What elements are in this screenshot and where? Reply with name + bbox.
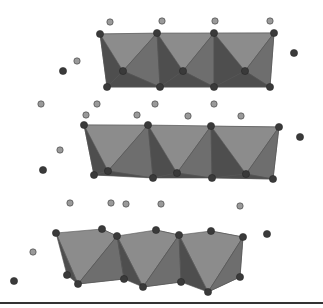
interlayer-atom-dark: [10, 277, 17, 284]
interlayer-atom-light: [67, 200, 73, 206]
interlayer-atom-light: [30, 249, 36, 255]
vertex-atom: [80, 121, 87, 128]
interlayer-atom-dark: [290, 49, 297, 56]
interlayer-atom-light: [107, 19, 113, 25]
vertex-atom: [104, 167, 111, 174]
vertex-atom: [236, 273, 243, 280]
vertex-atom: [90, 171, 97, 178]
vertex-atom: [242, 170, 249, 177]
interlayer-atom-dark: [59, 67, 66, 74]
interlayer-atom-light: [38, 101, 44, 107]
vertex-atom: [208, 174, 215, 181]
interlayer-atom-light: [152, 101, 158, 107]
vertex-atom: [210, 29, 217, 36]
vertex-atom: [207, 122, 214, 129]
vertex-atom: [63, 271, 70, 278]
interlayer-atom-dark: [263, 230, 270, 237]
vertex-atom: [266, 83, 273, 90]
interlayer-atom-light: [94, 101, 100, 107]
vertex-atom: [239, 233, 246, 240]
interlayer-atom-light: [158, 201, 164, 207]
interlayer-atom-dark: [39, 166, 46, 173]
polyhedra-canvas: [0, 0, 323, 308]
interlayer-atom-light: [238, 113, 244, 119]
interlayer-atom-light: [212, 18, 218, 24]
vertex-atom: [179, 67, 186, 74]
interlayer-atom-light: [267, 18, 273, 24]
vertex-atom: [119, 67, 126, 74]
vertex-atom: [74, 280, 81, 287]
vertex-atom: [153, 29, 160, 36]
vertex-atom: [120, 275, 127, 282]
interlayer-atom-light: [74, 58, 80, 64]
vertex-atom: [152, 226, 159, 233]
vertex-atom: [149, 174, 156, 181]
vertex-atom: [139, 283, 146, 290]
interlayer-atom-light: [237, 203, 243, 209]
vertex-atom: [103, 83, 110, 90]
vertex-atom: [270, 29, 277, 36]
vertex-atom: [177, 278, 184, 285]
interlayer-atom-light: [83, 112, 89, 118]
vertex-atom: [156, 83, 163, 90]
interlayer-atom-light: [159, 18, 165, 24]
interlayer-atom-dark: [296, 133, 303, 140]
vertex-atom: [173, 169, 180, 176]
vertex-atom: [52, 229, 59, 236]
crystal-structure-diagram: [0, 0, 323, 308]
vertex-atom: [98, 225, 105, 232]
interlayer-atom-light: [185, 113, 191, 119]
vertex-atom: [241, 67, 248, 74]
interlayer-atom-light: [108, 200, 114, 206]
vertex-atom: [144, 121, 151, 128]
interlayer-atom-light: [134, 112, 140, 118]
interlayer-atom-light: [211, 101, 217, 107]
vertex-atom: [204, 288, 211, 295]
vertex-atom: [275, 123, 282, 130]
vertex-atom: [210, 83, 217, 90]
interlayer-atom-light: [57, 147, 63, 153]
vertex-atom: [207, 227, 214, 234]
interlayer-atom-light: [123, 201, 129, 207]
vertex-atom: [269, 175, 276, 182]
vertex-atom: [113, 232, 120, 239]
vertex-atom: [175, 231, 182, 238]
vertex-atom: [96, 30, 103, 37]
